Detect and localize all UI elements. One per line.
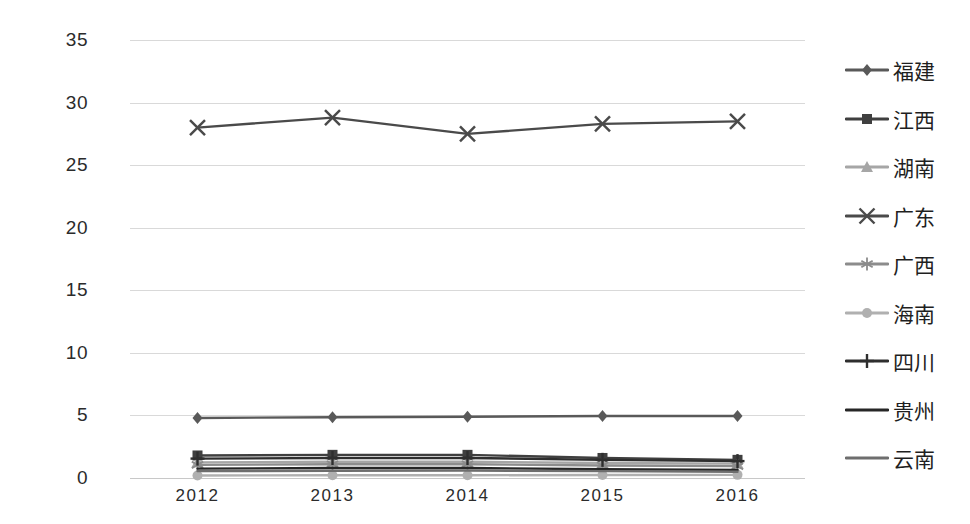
line-marker-icon	[845, 400, 889, 420]
x-axis-tick-label: 2015	[581, 486, 625, 506]
x-marker-icon	[845, 206, 889, 226]
asterisk-marker-icon	[845, 254, 889, 274]
series-福建	[193, 410, 743, 424]
legend-item-广西[interactable]: 广西	[845, 240, 970, 289]
data-point-marker	[328, 411, 338, 423]
x-axis-tick-label: 2016	[716, 486, 760, 506]
line-marker-icon	[845, 448, 889, 468]
legend-item-label: 广东	[893, 201, 935, 231]
triangle-marker-icon	[845, 157, 889, 177]
x-axis-tick-label: 2012	[176, 486, 220, 506]
square-marker-icon	[845, 109, 889, 129]
legend-item-湖南[interactable]: 湖南	[845, 143, 970, 192]
y-axis-tick-label: 5	[28, 404, 88, 426]
y-axis-tick-label: 30	[28, 92, 88, 114]
chart-legend: 福建江西湖南广东广西海南四川贵州云南	[845, 46, 970, 483]
data-point-marker	[598, 410, 608, 422]
plot-area	[130, 40, 805, 478]
legend-item-江西[interactable]: 江西	[845, 95, 970, 144]
legend-item-label: 四川	[893, 346, 935, 376]
line-chart: 05101520253035 20122013201420152016 福建江西…	[0, 0, 970, 524]
series-广东	[190, 110, 745, 141]
data-point-marker	[463, 411, 473, 423]
legend-item-云南[interactable]: 云南	[845, 434, 970, 483]
series-云南	[198, 470, 738, 471]
legend-item-label: 贵州	[893, 395, 935, 425]
y-axis-tick-label: 15	[28, 279, 88, 301]
legend-item-四川[interactable]: 四川	[845, 337, 970, 386]
y-axis-tick-label: 20	[28, 217, 88, 239]
legend-item-label: 福建	[893, 55, 935, 85]
data-point-marker	[862, 308, 872, 318]
legend-item-label: 江西	[893, 104, 935, 134]
legend-item-label: 广西	[893, 249, 935, 279]
data-point-marker	[193, 412, 203, 424]
legend-item-贵州[interactable]: 贵州	[845, 386, 970, 435]
plus-marker-icon	[845, 351, 889, 371]
x-axis-tick-label: 2013	[311, 486, 355, 506]
legend-item-label: 海南	[893, 298, 935, 328]
legend-item-海南[interactable]: 海南	[845, 289, 970, 338]
data-point-marker	[733, 410, 743, 422]
y-axis-tick-label: 25	[28, 154, 88, 176]
y-axis-tick-label: 10	[28, 342, 88, 364]
diamond-marker-icon	[845, 60, 889, 80]
legend-item-广东[interactable]: 广东	[845, 192, 970, 241]
series-layer	[130, 40, 805, 478]
data-point-marker	[862, 64, 872, 76]
legend-item-福建[interactable]: 福建	[845, 46, 970, 95]
y-axis-tick-label: 35	[28, 29, 88, 51]
x-axis-tick-label: 2014	[446, 486, 490, 506]
data-point-marker	[862, 114, 872, 124]
legend-item-label: 云南	[893, 443, 935, 473]
y-axis-tick-label: 0	[28, 467, 88, 489]
circle-marker-icon	[845, 303, 889, 323]
data-point-marker	[860, 354, 874, 368]
data-point-marker	[463, 470, 473, 480]
legend-item-label: 湖南	[893, 152, 935, 182]
